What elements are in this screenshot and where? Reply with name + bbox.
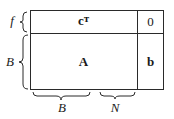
brace-bottom-n-icon bbox=[100, 92, 135, 99]
brace-icons bbox=[0, 0, 174, 119]
brace-left-f-icon bbox=[20, 12, 27, 32]
brace-bottom-b-icon bbox=[33, 92, 90, 100]
brace-left-b-icon bbox=[19, 35, 28, 89]
